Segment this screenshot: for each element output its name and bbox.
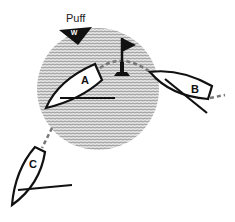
boat-track-c xyxy=(42,128,52,148)
boat-c: C xyxy=(12,147,72,205)
boat-track-b-stern xyxy=(210,95,225,98)
boat-a-label: A xyxy=(81,74,89,86)
sailing-diagram: W Puff A B C xyxy=(0,0,235,222)
puff-label: Puff xyxy=(66,12,86,24)
wind-label: W xyxy=(71,29,78,36)
puff-zone xyxy=(37,28,159,150)
boat-b: B xyxy=(150,71,212,113)
boat-b-label: B xyxy=(191,83,199,95)
boat-c-label: C xyxy=(29,158,37,170)
